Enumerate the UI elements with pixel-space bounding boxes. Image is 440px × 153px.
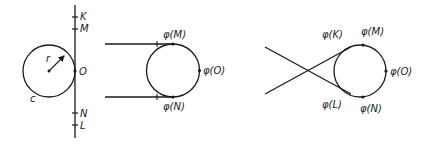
label-c: c — [30, 93, 36, 104]
label-n: N — [80, 108, 88, 119]
label-o: O — [79, 66, 87, 77]
label-phi-o-2: φ(O) — [390, 66, 412, 77]
panel-crossing-image: φ(K) φ(M) φ(O) φ(L) φ(N) — [265, 26, 412, 114]
image-circle — [147, 44, 200, 97]
label-phi-l: φ(L) — [322, 99, 342, 110]
label-phi-m: φ(M) — [163, 29, 186, 40]
label-phi-n: φ(N) — [163, 101, 185, 112]
label-phi-k: φ(K) — [322, 29, 343, 40]
label-phi-n-2: φ(N) — [360, 103, 382, 114]
image-circle-2 — [334, 45, 386, 97]
label-phi-m-2: φ(M) — [361, 26, 384, 37]
panel-parallel-image: φ(M) φ(O) φ(N) — [105, 29, 225, 112]
panel-line-and-circle: K M O N L c r — [23, 5, 89, 138]
label-l: L — [80, 120, 86, 131]
radius-arrow — [49, 56, 64, 71]
label-phi-o: φ(O) — [203, 65, 225, 76]
diagram-canvas: K M O N L c r φ(M) φ(O) φ(N) φ(K) φ(M) φ… — [0, 0, 440, 153]
label-m: M — [80, 23, 89, 34]
label-r: r — [46, 53, 51, 64]
point-o — [73, 69, 76, 72]
label-k: K — [80, 11, 88, 22]
